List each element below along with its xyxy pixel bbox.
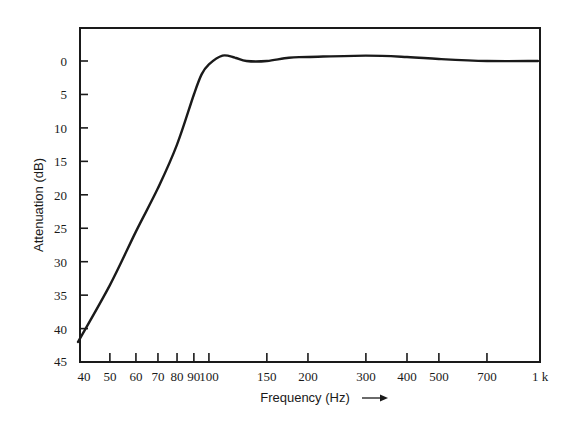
plot-frame [80,28,540,362]
svg-text:Frequency (Hz): Frequency (Hz) [260,390,350,405]
y-axis-ticks: 051015202530354045 [54,54,88,369]
x-tick-label: 80 [171,369,184,384]
x-tick-label: 300 [356,369,376,384]
x-tick-label: 70 [151,369,164,384]
y-tick-label: 45 [54,354,67,369]
x-tick-label: 400 [397,369,417,384]
y-tick-label: 5 [61,87,68,102]
x-tick-label: 150 [257,369,277,384]
y-tick-label: 10 [54,121,67,136]
y-tick-label: 25 [54,221,67,236]
attenuation-chart: 051015202530354045 405060708090100150200… [0,0,585,430]
y-axis-label: Attenuation (dB) [31,158,46,252]
x-tick-label: 60 [129,369,142,384]
y-tick-label: 0 [61,54,68,69]
x-tick-label: 40 [78,369,91,384]
y-tick-label: 30 [54,255,67,270]
x-tick-label: 200 [298,369,318,384]
x-axis-label: Frequency (Hz) [260,390,388,405]
x-tick-label: 700 [477,369,497,384]
y-tick-label: 20 [54,188,67,203]
x-tick-label: 100 [199,369,219,384]
x-tick-label: 1 k [532,369,549,384]
y-tick-label: 15 [54,154,67,169]
y-tick-label: 40 [54,322,67,337]
x-tick-label: 500 [429,369,449,384]
right-arrow-icon [362,395,388,402]
x-tick-label: 50 [103,369,116,384]
x-axis-ticks: 4050607080901001502003004005007001 k [78,353,549,384]
y-tick-label: 35 [54,288,67,303]
attenuation-curve [78,55,538,342]
